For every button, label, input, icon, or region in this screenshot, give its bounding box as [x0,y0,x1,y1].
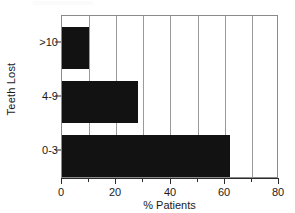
y-axis-tick-labels: >10 4-9 0-3 [14,0,58,213]
x-tick-label: 0 [58,186,64,198]
x-tick-mark-30 [142,178,143,182]
x-tick-mark-80 [278,178,279,184]
x-tick-label: 60 [218,186,230,198]
x-tick-mark-10 [88,178,89,182]
x-tick-mark-40 [170,178,171,184]
y-tick-label: >10 [16,36,58,48]
x-tick-label: 40 [164,186,176,198]
bar-teeth-lost-4-9 [62,81,138,123]
x-tick-mark-0 [61,178,62,184]
y-tick-label: 4-9 [16,90,58,102]
x-tick-mark-70 [251,178,252,182]
bar-chart-figure: Teeth Lost >10 4-9 0-3 0 20 40 60 80 % P… [0,0,295,213]
bar-teeth-lost-0-3 [62,135,230,177]
y-tick-label: 0-3 [16,144,58,156]
x-tick-mark-20 [115,178,116,184]
x-tick-mark-50 [197,178,198,182]
x-axis-title: % Patients [61,199,278,211]
gridline-70 [252,16,253,177]
plot-area [61,15,278,178]
x-tick-mark-60 [224,178,225,184]
x-tick-label: 20 [109,186,121,198]
x-tick-label: 80 [272,186,284,198]
bar-teeth-lost-gt10 [62,27,89,69]
